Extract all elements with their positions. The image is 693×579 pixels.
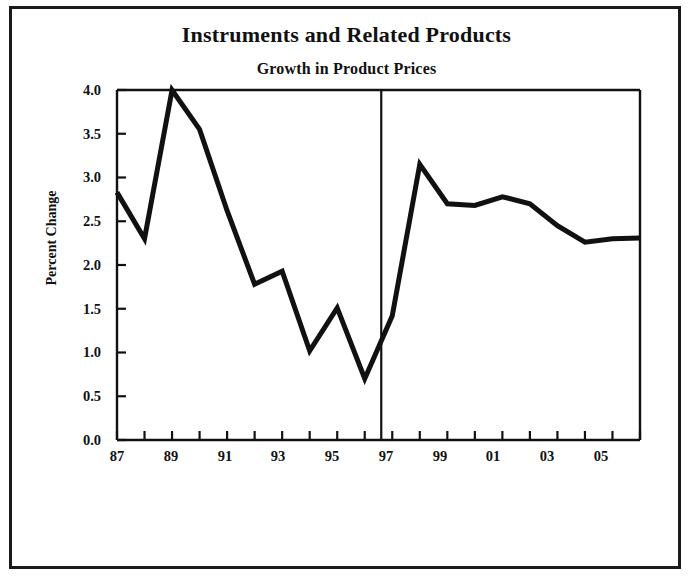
x-tick-label-95: 95	[312, 448, 352, 465]
plot-area	[0, 0, 693, 579]
x-axis-ticks	[117, 431, 640, 440]
y-axis-ticks	[117, 90, 126, 440]
x-tick-label-99: 99	[420, 448, 460, 465]
y-tick-label-2-5: 2.5	[55, 213, 101, 230]
x-tick-label-05: 05	[581, 448, 621, 465]
y-axis-title: Percent Change	[44, 178, 60, 298]
y-tick-label-2: 2.0	[55, 257, 101, 274]
x-tick-label-03: 03	[527, 448, 567, 465]
y-tick-label-1: 1.0	[55, 344, 101, 361]
chart-title: Instruments and Related Products	[0, 22, 693, 48]
x-tick-label-89: 89	[151, 448, 191, 465]
y-tick-label-3: 3.0	[55, 169, 101, 186]
x-tick-label-97: 97	[366, 448, 406, 465]
x-tick-label-87: 87	[97, 448, 137, 465]
y-tick-label-4: 4.0	[55, 82, 101, 99]
x-tick-label-01: 01	[473, 448, 513, 465]
data-series-line	[117, 90, 640, 379]
figure-page: Instruments and Related Products Growth …	[0, 0, 693, 579]
y-tick-label-0-5: 0.5	[55, 388, 101, 405]
x-tick-label-91: 91	[205, 448, 245, 465]
y-tick-label-1-5: 1.5	[55, 301, 101, 318]
chart-figure: Instruments and Related Products Growth …	[0, 0, 693, 579]
x-tick-label-93: 93	[258, 448, 298, 465]
y-tick-label-3-5: 3.5	[55, 126, 101, 143]
y-tick-label-0: 0.0	[55, 432, 101, 449]
chart-subtitle: Growth in Product Prices	[0, 60, 693, 78]
axis-frame	[117, 90, 640, 440]
